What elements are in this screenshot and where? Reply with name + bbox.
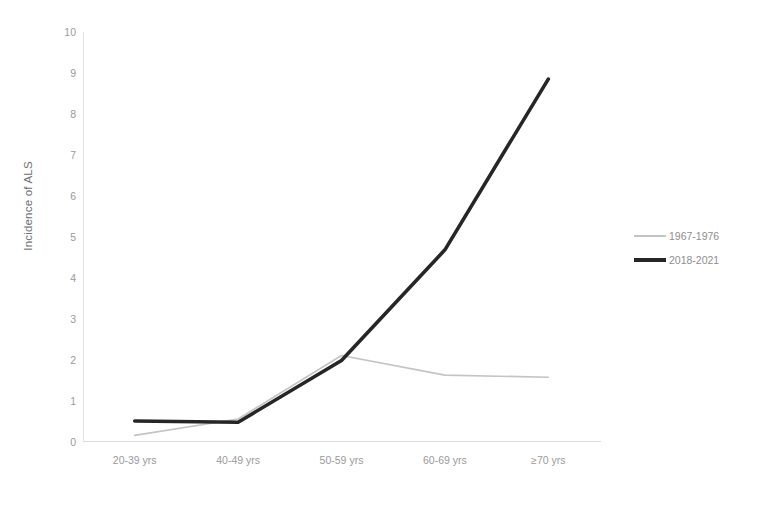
legend-line-swatch-icon [634, 235, 666, 237]
chart-legend: 1967-1976 2018-2021 [634, 224, 758, 272]
line-chart: Incidence of ALS 109876543210 20-39 yrs4… [0, 0, 760, 505]
legend-item-label: 2018-2021 [666, 254, 719, 266]
legend-item-label: 1967-1976 [666, 230, 719, 242]
series-line-2018-2021 [135, 79, 549, 422]
legend-item-1967-1976[interactable]: 1967-1976 [634, 224, 758, 248]
legend-item-2018-2021[interactable]: 2018-2021 [634, 248, 758, 272]
legend-line-swatch-icon [634, 258, 666, 262]
